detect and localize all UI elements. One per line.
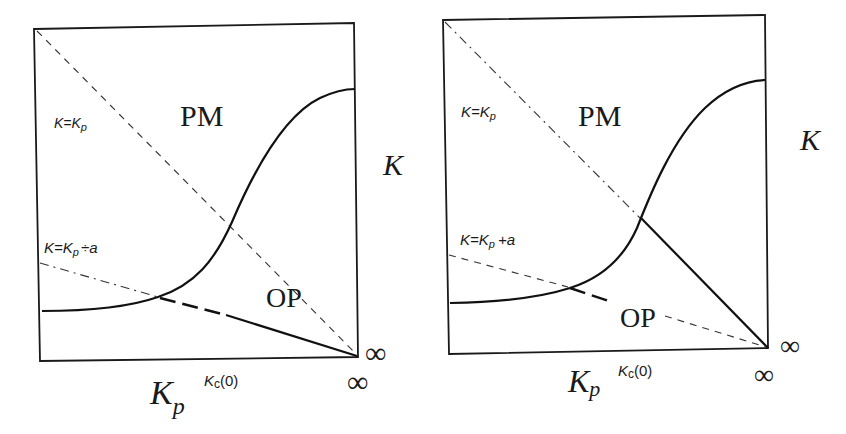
right-region-pm-label: PM xyxy=(578,99,621,132)
left-line-k-equals-kp-plus-a xyxy=(40,263,158,297)
right-thick-dashed-segment xyxy=(570,288,612,302)
left-region-op-label: OP xyxy=(266,282,302,313)
right-line1-label: K=Kp xyxy=(461,103,496,122)
left-infinity-bottom: ∞ xyxy=(347,365,368,398)
left-region-pm-label: PM xyxy=(180,99,223,132)
right-region-op-label: OP xyxy=(620,302,656,333)
right-line-k-equals-kp-plus-a xyxy=(449,255,568,287)
left-panel: PM OP K=Kp K=Kp÷a K Kp Kc(0) ∞ ∞ xyxy=(34,23,405,419)
left-tick-kc0: Kc(0) xyxy=(204,372,238,391)
right-infinity-right: ∞ xyxy=(780,330,800,361)
right-tick-kc0: Kc(0) xyxy=(618,362,652,381)
right-line2-label: K=Kp+a xyxy=(460,231,515,250)
left-line1-label: K=Kp xyxy=(54,115,87,133)
right-axis-y-label: K xyxy=(799,123,822,156)
right-panel: PM OP K=Kp K=Kp+a K Kp Kc(0) ∞ ∞ xyxy=(443,15,822,401)
left-axis-y-label: K xyxy=(382,148,405,181)
left-line-k-equals-kp xyxy=(37,31,356,354)
right-axis-x-label: Kp xyxy=(567,363,600,401)
left-axis-x-label: Kp xyxy=(149,374,185,419)
right-frame xyxy=(443,15,768,354)
left-line2-label: K=Kp÷a xyxy=(44,239,97,258)
right-infinity-bottom: ∞ xyxy=(754,359,774,390)
phase-diagram-figure: PM OP K=Kp K=Kp÷a K Kp Kc(0) ∞ ∞ PM OP K… xyxy=(0,0,846,434)
left-first-order-dashed-segment xyxy=(160,298,226,315)
left-first-order-solid-segment xyxy=(226,315,357,356)
